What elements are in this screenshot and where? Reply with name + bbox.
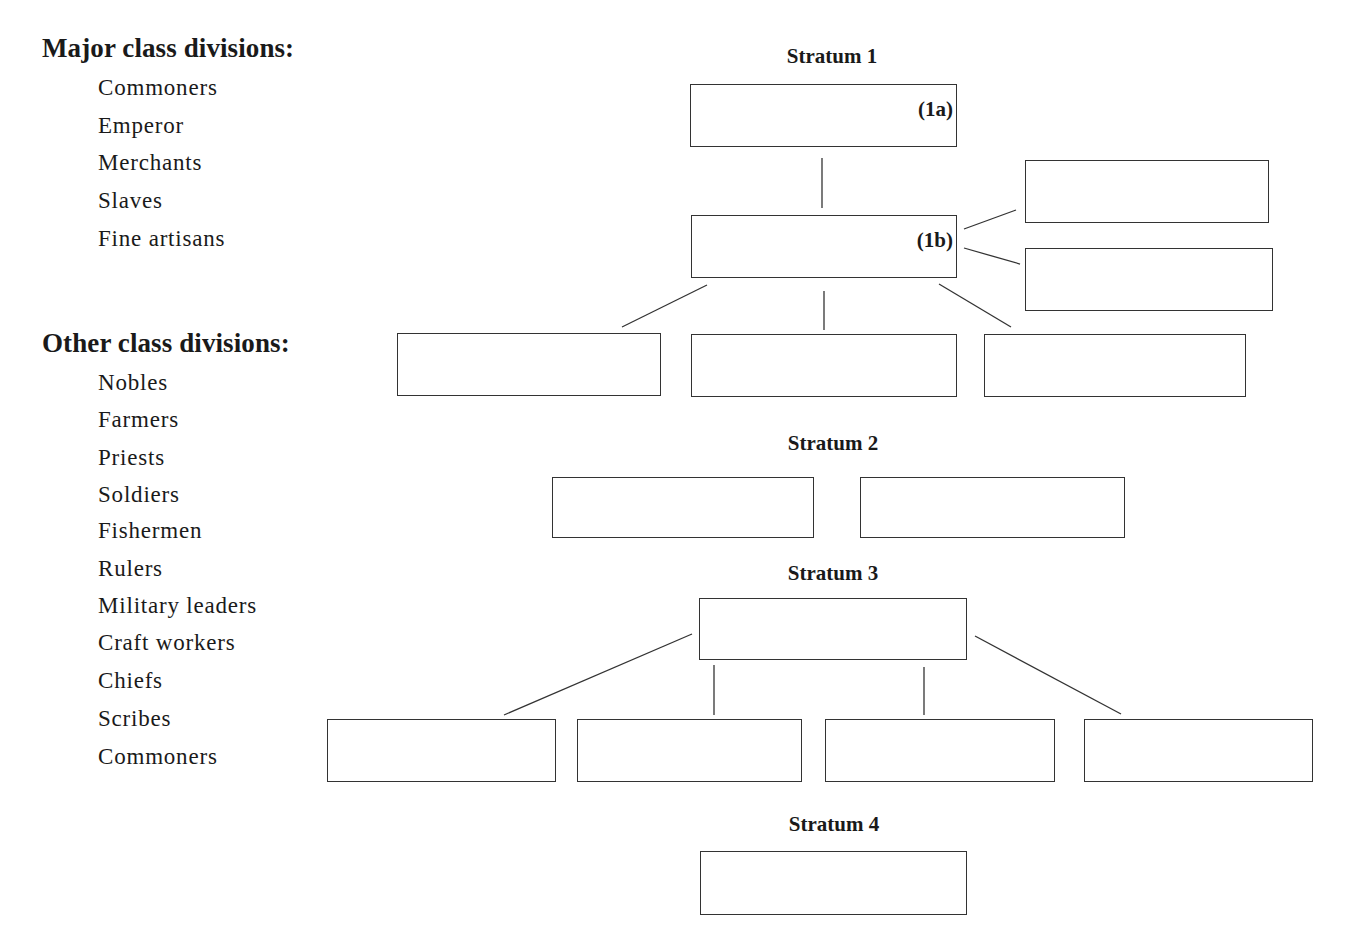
stratum-2-label: Stratum 2: [788, 431, 878, 456]
box-1b-side-top[interactable]: [1025, 160, 1269, 223]
box-stratum-3-child-1[interactable]: [327, 719, 556, 782]
box-1b-child-left[interactable]: [397, 333, 661, 396]
connector-lines: [0, 0, 1347, 945]
box-1b-side-bottom[interactable]: [1025, 248, 1273, 311]
box-1a-tag: (1a): [918, 97, 953, 122]
stratum-3-label: Stratum 3: [788, 561, 878, 586]
box-stratum-2-left[interactable]: [552, 477, 814, 538]
box-stratum-3-child-3[interactable]: [825, 719, 1055, 782]
box-1a[interactable]: (1a): [690, 84, 957, 147]
box-stratum-3-child-4[interactable]: [1084, 719, 1313, 782]
box-1b-child-right[interactable]: [984, 334, 1246, 397]
box-1b-child-middle[interactable]: [691, 334, 957, 397]
box-stratum-3-top[interactable]: [699, 598, 967, 660]
box-stratum-4[interactable]: [700, 851, 967, 915]
stratum-1-label: Stratum 1: [787, 44, 877, 69]
box-stratum-2-right[interactable]: [860, 477, 1125, 538]
box-stratum-3-child-2[interactable]: [577, 719, 802, 782]
box-1b-tag: (1b): [917, 228, 953, 253]
stratum-4-label: Stratum 4: [789, 812, 879, 837]
box-1b[interactable]: (1b): [691, 215, 957, 278]
